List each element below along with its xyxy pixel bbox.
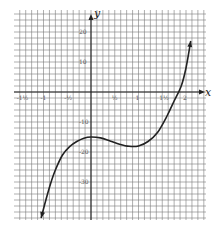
y-tick-label: 10 [79,58,87,65]
x-tick-label: -½ [64,94,72,101]
x-tick-label: 2 [183,94,187,101]
y-axis-label: y [93,7,101,20]
x-axis-label: x [205,86,212,99]
chart: -1½-1-½½11½22010-10-20-30 x y [0,0,213,229]
y-tick-label: 20 [79,28,87,35]
y-tick-label: -10 [79,118,89,125]
axes [14,14,205,220]
y-tick-label: -30 [79,178,89,185]
y-axis-arrow [89,14,94,20]
tick-labels: -1½-1-½½11½22010-10-20-30 [17,28,187,185]
y-tick-label: -20 [79,148,89,155]
grid [14,10,206,220]
x-tick-label: ½ [112,94,118,101]
x-tick-label: 1 [136,94,140,101]
x-tick-label: -1½ [17,94,29,101]
curve-arrows [40,41,192,218]
x-tick-label: -1 [41,94,47,101]
x-tick-label: 1½ [159,94,169,101]
